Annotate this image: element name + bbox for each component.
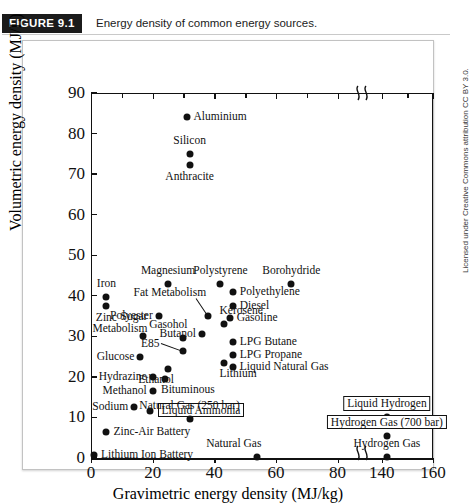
x-axis-title: Gravimetric energy density (MJ/kg) [23, 485, 433, 503]
data-point-label: SugarMetabolism [92, 310, 147, 334]
data-point [180, 335, 187, 342]
data-point-label: Aluminium [194, 110, 247, 122]
data-point [131, 404, 138, 411]
y-tick [91, 173, 97, 174]
y-tick [91, 417, 97, 418]
data-point [186, 416, 193, 423]
caption-divider [2, 34, 450, 35]
x-tick-top-minor [407, 93, 408, 98]
data-point [91, 451, 98, 458]
y-tick [91, 133, 97, 134]
data-point-label: Liquid Hydrogen [343, 396, 431, 410]
data-point-label: E85 [141, 337, 160, 349]
x-tick-top-minor [245, 93, 246, 98]
data-point [220, 321, 227, 328]
data-point [217, 280, 224, 287]
x-tick-top [153, 93, 154, 99]
data-point-label: Zinc-Air Battery [113, 425, 190, 437]
figure-caption: FIGURE 9.1 Energy density of common ener… [0, 14, 454, 36]
data-point [186, 150, 193, 157]
data-point [383, 453, 390, 460]
data-point-label: Polystyrene [193, 264, 247, 276]
data-point-label: Fat Metabolism [134, 286, 207, 298]
y-tick-label: 80 [68, 124, 85, 144]
y-tick-label: 40 [68, 286, 85, 306]
y-tick-label: 10 [68, 407, 85, 427]
top-axis-break-icon [353, 85, 375, 101]
data-point [161, 375, 168, 382]
x-tick-label: 140 [369, 463, 395, 483]
plot-area: 020406080140160 AluminiumSiliconAnthraci… [91, 93, 433, 458]
figure-container: Volumetric energy density (MJ/L) Gravime… [22, 40, 434, 470]
y-tick-label: 60 [68, 205, 85, 225]
data-point [103, 293, 110, 300]
data-point-label: LPG Propane [240, 348, 302, 360]
x-tick-top [338, 93, 339, 99]
x-tick-label: 80 [329, 463, 346, 483]
data-point [103, 302, 110, 309]
data-point [149, 388, 156, 395]
data-point-label: Gasohol [149, 318, 187, 330]
x-tick-top-minor [122, 93, 123, 98]
data-point [103, 428, 110, 435]
figure-caption-text: Energy density of common energy sources. [96, 14, 317, 33]
data-point-label: Sodium [92, 400, 128, 412]
x-tick-top [91, 93, 92, 99]
x-tick-label: 20 [144, 463, 161, 483]
data-point [137, 353, 144, 360]
data-point-label: Silicon [173, 134, 206, 146]
y-tick-label: 20 [68, 367, 85, 387]
data-point-label: Kerosene [220, 304, 263, 316]
data-point-label: Methanol [103, 384, 147, 396]
x-tick-top [276, 93, 277, 99]
data-point-label: Magnesium [141, 264, 195, 276]
y-tick-label: 30 [68, 326, 85, 346]
data-point [220, 359, 227, 366]
y-tick [91, 255, 97, 256]
license-credit: Licensed under Creative Commons attribut… [461, 68, 470, 273]
x-tick-top [214, 93, 215, 99]
data-point-label: Lithium Ion Battery [101, 448, 193, 460]
data-point-label: Borohydride [262, 264, 320, 276]
data-point-label: Natural Gas (250 bar) [139, 399, 240, 411]
y-tick [91, 295, 97, 296]
data-point [165, 365, 172, 372]
data-point-label: Bituminous [161, 383, 215, 395]
x-tick-label: 60 [267, 463, 284, 483]
data-point [254, 453, 261, 460]
y-tick-label: 70 [68, 164, 85, 184]
data-point-label: LPG Butane [240, 335, 297, 347]
y-tick [91, 336, 97, 337]
x-tick-label: 0 [87, 463, 96, 483]
y-tick-label: 90 [68, 83, 85, 103]
data-point [149, 373, 156, 380]
data-point [229, 288, 236, 295]
y-tick [91, 92, 97, 93]
y-tick [91, 376, 97, 377]
data-point-label: Glucose [97, 350, 135, 362]
x-tick-top-minor [183, 93, 184, 98]
data-point-label: Hydrogen Gas (700 bar) [327, 415, 447, 429]
x-tick-top [433, 93, 434, 99]
data-point-label: Hydrazine [99, 370, 147, 382]
data-point-label: Anthracite [165, 170, 214, 182]
y-tick [91, 214, 97, 215]
data-point [186, 161, 193, 168]
y-tick-label: 50 [68, 245, 85, 265]
data-point [229, 351, 236, 358]
y-tick-label-group: 0102030405060708090 [23, 93, 85, 458]
x-tick-label: 40 [206, 463, 223, 483]
data-point-label: Lithium [220, 367, 257, 379]
data-point-label: Hydrogen Gas [354, 437, 421, 449]
data-point [183, 114, 190, 121]
x-tick-top-minor [307, 93, 308, 98]
x-tick-top [382, 93, 383, 99]
data-point [229, 339, 236, 346]
data-point-label: Natural Gas [206, 437, 261, 449]
x-tick-label: 160 [420, 463, 446, 483]
data-point-label: Polyethylene [240, 285, 300, 297]
data-point [198, 331, 205, 338]
y-tick-label: 0 [77, 448, 86, 468]
data-point-label: Iron [97, 277, 116, 289]
